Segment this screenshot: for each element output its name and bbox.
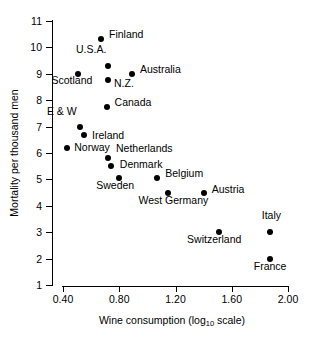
data-point-marker — [105, 155, 111, 161]
data-point-label: Austria — [212, 184, 245, 195]
data-point-marker — [98, 36, 104, 42]
data-point-label: Netherlands — [116, 143, 173, 154]
data-point-label: Norway — [74, 142, 110, 153]
data-point-marker — [64, 145, 70, 151]
data-point-label: Finland — [109, 29, 143, 40]
data-point-label: France — [254, 261, 287, 272]
data-point-label: E & W — [47, 106, 77, 117]
data-point-label: Canada — [115, 97, 152, 108]
data-point-marker — [105, 77, 111, 83]
data-point-marker — [154, 175, 160, 181]
data-point-marker — [77, 124, 83, 130]
data-point-label: Denmark — [120, 159, 163, 170]
data-point-marker — [129, 71, 135, 77]
data-point-marker — [104, 104, 110, 110]
data-point-label: Belgium — [165, 168, 203, 179]
data-point-label: N.Z. — [114, 78, 134, 89]
plot-area: FinlandU.S.A.AustraliaScotlandN.Z.Canada… — [0, 0, 313, 337]
data-point-label: Australia — [140, 64, 181, 75]
data-point-label: Sweden — [96, 180, 134, 191]
scatter-plot-figure: Mortality per thousand men Wine consumpt… — [0, 0, 313, 337]
data-point-label: Switzerland — [187, 234, 241, 245]
data-point-marker — [105, 63, 111, 69]
data-point-label: U.S.A. — [76, 44, 106, 55]
data-point-label: Ireland — [92, 130, 124, 141]
data-point-label: Italy — [262, 210, 281, 221]
data-point-label: Scotland — [51, 75, 92, 86]
data-point-marker — [81, 132, 87, 138]
data-point-marker — [267, 229, 273, 235]
data-point-marker — [108, 163, 114, 169]
data-point-label: West Germany — [138, 195, 208, 206]
